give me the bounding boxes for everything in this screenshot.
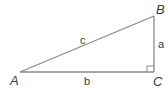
side-label-c: c bbox=[80, 34, 86, 46]
vertex-label-b: B bbox=[156, 2, 165, 17]
vertex-label-c: C bbox=[153, 74, 163, 88]
vertex-label-a: A bbox=[9, 73, 19, 88]
triangle-edges bbox=[20, 16, 154, 72]
right-angle-marker bbox=[147, 66, 154, 72]
side-c-line bbox=[20, 16, 154, 72]
side-label-b: b bbox=[84, 75, 90, 87]
right-triangle-diagram: A B C c a b bbox=[0, 0, 168, 88]
side-label-a: a bbox=[158, 38, 165, 50]
